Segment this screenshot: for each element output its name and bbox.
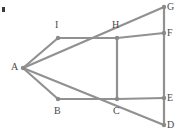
edge-a-i xyxy=(23,38,58,68)
vertex-node-i xyxy=(56,36,60,40)
vertex-label-c: C xyxy=(113,106,120,116)
vertex-label-i: I xyxy=(55,20,58,30)
vertex-node-b xyxy=(56,97,60,101)
vertex-node-g xyxy=(162,5,166,9)
edge-layer xyxy=(23,7,164,125)
edge-a-d xyxy=(23,68,164,125)
node-layer xyxy=(21,5,166,127)
geometry-diagram: ABCDEFGHI xyxy=(0,0,177,133)
vertex-node-f xyxy=(162,31,166,35)
vertex-label-d: D xyxy=(167,120,174,130)
vertex-label-g: G xyxy=(167,2,174,12)
vertex-node-a xyxy=(21,66,25,70)
vertex-label-b: B xyxy=(54,106,61,116)
vertex-label-h: H xyxy=(112,20,119,30)
edge-c-e xyxy=(117,98,164,99)
edge-h-f xyxy=(117,33,164,38)
vertex-node-e xyxy=(162,96,166,100)
vertex-node-d xyxy=(162,123,166,127)
edge-a-b xyxy=(23,68,58,99)
vertex-label-e: E xyxy=(167,93,173,103)
vertex-label-f: F xyxy=(167,28,173,38)
vertex-node-c xyxy=(115,97,119,101)
diagram-canvas xyxy=(0,0,177,133)
vertex-node-h xyxy=(115,36,119,40)
vertex-label-a: A xyxy=(11,62,18,72)
